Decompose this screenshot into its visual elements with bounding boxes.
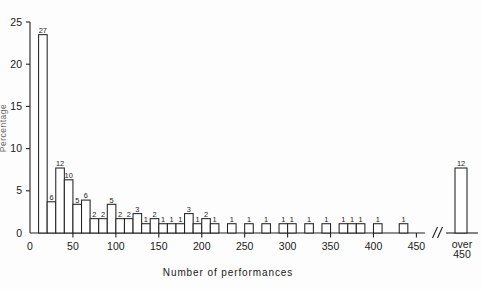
bar-label-270-280: 1 — [264, 215, 268, 224]
bar-90-100 — [107, 204, 116, 233]
bar-label-130-140: 1 — [144, 215, 148, 224]
bar-label-120-130: 3 — [135, 205, 139, 214]
x-tick-label-250: 250 — [236, 240, 254, 252]
bar-340-350 — [322, 224, 331, 233]
bar-label-250-260: 1 — [247, 215, 251, 224]
x-tick-label-350: 350 — [322, 240, 340, 252]
bar-label-80-90: 2 — [101, 210, 105, 219]
bar-label-210-220: 1 — [213, 215, 217, 224]
bar-label-40-50: 10 — [65, 171, 73, 180]
bar-120-130 — [133, 214, 142, 233]
y-tick-label-20: 20 — [10, 58, 22, 70]
bar-label-50-60: 5 — [75, 196, 79, 205]
bar-label-150-160: 1 — [161, 215, 165, 224]
bar-360-370 — [339, 224, 348, 233]
bar-label-300-310: 1 — [290, 215, 294, 224]
bar-430-440 — [399, 224, 408, 233]
bar-400-410 — [373, 224, 382, 233]
bar-label-320-330: 1 — [307, 215, 311, 224]
bar-label-60-70: 6 — [84, 191, 88, 200]
x-tick-label-100: 100 — [107, 240, 125, 252]
histogram-figure: 0510152025Percentage05010015020025030035… — [0, 0, 481, 289]
bar-110-120 — [124, 219, 133, 233]
axis-break-slash-1 — [433, 227, 438, 238]
y-tick-label-10: 10 — [10, 142, 22, 154]
x-tick-label-450: 450 — [408, 240, 426, 252]
bar-label-180-190: 3 — [187, 205, 191, 214]
bar-170-180 — [176, 224, 185, 233]
bar-100-110 — [116, 219, 125, 233]
bar-label-90-100: 5 — [110, 196, 114, 205]
bar-370-380 — [348, 224, 357, 233]
y-tick-label-0: 0 — [16, 227, 22, 239]
bar-label-140-150: 2 — [152, 210, 156, 219]
y-tick-label-25: 25 — [10, 16, 22, 28]
bar-210-220 — [210, 224, 219, 233]
bar-label-360-370: 1 — [341, 215, 345, 224]
bar-label-70-80: 2 — [92, 210, 96, 219]
x-tick-label-300: 300 — [279, 240, 297, 252]
bar-70-80 — [90, 219, 99, 233]
bar-label-10-20: 27 — [39, 26, 47, 35]
bar-160-170 — [167, 224, 176, 233]
bar-label-over-450: 12 — [457, 159, 465, 168]
bar-label-340-350: 1 — [324, 215, 328, 224]
x-tick-label-400: 400 — [365, 240, 383, 252]
bar-140-150 — [150, 219, 159, 233]
x-tick-label-150: 150 — [150, 240, 168, 252]
bar-270-280 — [262, 224, 271, 233]
bar-150-160 — [159, 224, 168, 233]
bar-230-240 — [228, 224, 237, 233]
bar-130-140 — [142, 224, 151, 233]
bar-320-330 — [305, 224, 314, 233]
x-overflow-label-line2: 450 — [453, 248, 471, 260]
bar-over-450 — [455, 168, 467, 233]
bar-label-230-240: 1 — [230, 215, 234, 224]
bar-60-70 — [82, 200, 91, 233]
bar-label-370-380: 1 — [350, 215, 354, 224]
bar-30-40 — [56, 168, 65, 233]
bar-190-200 — [193, 224, 202, 233]
x-tick-label-0: 0 — [27, 240, 33, 252]
bar-label-290-300: 1 — [281, 215, 285, 224]
bar-label-400-410: 1 — [376, 215, 380, 224]
bar-label-200-210: 2 — [204, 210, 208, 219]
bar-50-60 — [73, 204, 82, 233]
x-axis-title: Number of performances — [163, 267, 293, 278]
bar-label-380-390: 1 — [359, 215, 363, 224]
bar-80-90 — [99, 219, 108, 233]
bar-290-300 — [279, 224, 288, 233]
bar-250-260 — [245, 224, 254, 233]
bar-300-310 — [288, 224, 297, 233]
bar-label-430-440: 1 — [401, 215, 405, 224]
bar-label-100-110: 2 — [118, 210, 122, 219]
y-tick-label-15: 15 — [10, 100, 22, 112]
bar-10-20 — [39, 35, 48, 233]
bar-label-190-200: 1 — [195, 215, 199, 224]
histogram-plot: 0510152025Percentage05010015020025030035… — [0, 0, 481, 289]
bar-label-170-180: 1 — [178, 215, 182, 224]
y-tick-label-5: 5 — [16, 184, 22, 196]
y-axis-title: Percentage — [0, 104, 8, 152]
x-tick-label-50: 50 — [67, 240, 79, 252]
bar-label-30-40: 12 — [56, 159, 64, 168]
x-tick-label-200: 200 — [193, 240, 211, 252]
bar-label-160-170: 1 — [170, 215, 174, 224]
bar-label-20-30: 6 — [49, 193, 53, 202]
bar-380-390 — [356, 224, 365, 233]
bar-20-30 — [47, 202, 56, 233]
bar-200-210 — [202, 219, 211, 233]
bar-180-190 — [185, 214, 194, 233]
bar-label-110-120: 2 — [127, 210, 131, 219]
axis-break-slash-2 — [438, 227, 443, 238]
bar-40-50 — [64, 180, 73, 233]
